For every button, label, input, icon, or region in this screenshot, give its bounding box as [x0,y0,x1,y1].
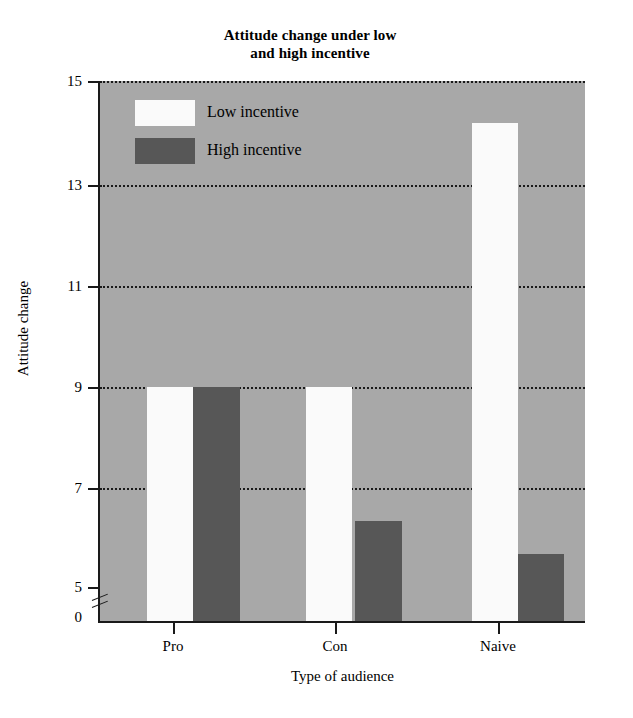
y-tick-label-0: 0 [36,610,82,625]
bar-naive-low-incentive [472,123,518,622]
legend-entry-low-incentive: Low incentive [135,98,355,136]
x-axis-line [98,621,585,623]
bar-pro-low-incentive [147,387,193,622]
y-tick-13 [88,185,100,187]
chart-title: Attitude change under low and high incen… [100,26,520,62]
legend-swatch-high-incentive [135,138,195,164]
y-tick-label-5: 5 [36,580,82,595]
bar-chart-figure: Attitude change under low and high incen… [0,0,633,718]
gridline-15 [100,81,585,83]
y-axis-line [98,81,100,622]
legend-entry-high-incentive: High incentive [135,136,355,174]
axis-break-icon [92,592,110,618]
legend-label-high-incentive: High incentive [207,140,302,160]
y-tick-15 [88,81,100,83]
y-tick-label-15: 15 [36,74,82,89]
y-axis-title: Attitude change [15,249,32,409]
y-tick-label-9: 9 [36,380,82,395]
chart-title-line-1: Attitude change under low [100,26,520,44]
x-tick-pro [173,623,175,634]
y-tick-7 [88,488,100,490]
y-tick-label-11: 11 [36,279,82,294]
bar-naive-high-incentive [518,554,564,622]
x-tick-naive [498,623,500,634]
chart-legend: Low incentive High incentive [135,98,355,174]
legend-label-low-incentive: Low incentive [207,102,299,122]
y-tick-5 [88,587,100,589]
x-tick-con [335,623,337,634]
bar-con-high-incentive [355,521,402,622]
x-tick-label-pro: Pro [113,638,233,655]
x-tick-label-naive: Naive [438,638,558,655]
y-tick-11 [88,286,100,288]
bar-con-low-incentive [306,387,352,622]
x-axis-title: Type of audience [100,668,585,685]
bar-pro-high-incentive [193,387,240,622]
y-tick-9 [88,387,100,389]
y-tick-label-7: 7 [36,481,82,496]
y-tick-label-13: 13 [36,178,82,193]
chart-title-line-2: and high incentive [100,44,520,62]
x-tick-label-con: Con [275,638,395,655]
legend-swatch-low-incentive [135,100,195,126]
